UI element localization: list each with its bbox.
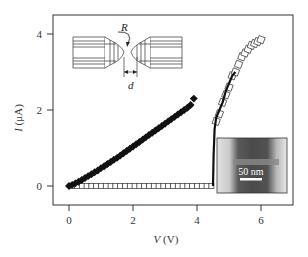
gap-label: d [128, 79, 134, 91]
open-square-marker [180, 184, 185, 189]
open-square-marker [185, 184, 190, 189]
open-square-marker [123, 184, 128, 189]
scale-bar [240, 178, 262, 181]
open-square-marker [99, 184, 104, 189]
x-tick-label: 2 [130, 214, 136, 226]
scale-bar-label: 50 nm [238, 166, 264, 177]
y-tick-label: 4 [37, 28, 43, 40]
open-square-marker [151, 184, 156, 189]
x-axis-label: V (V) [154, 233, 179, 246]
micrograph-inset: 50 nm [217, 138, 287, 193]
y-tick-label: 0 [37, 180, 43, 192]
electrode-schematic-inset [73, 32, 182, 77]
open-square-marker [108, 184, 113, 189]
iv-chart: 4 2 0 I (μA) 0 2 4 6 V (V) [0, 0, 308, 257]
open-square-marker [142, 184, 147, 189]
open-square-marker [118, 184, 123, 189]
x-axis: 0 2 4 6 V (V) [66, 205, 264, 246]
y-axis-label: I (μA) [12, 104, 25, 133]
open-square-marker [190, 184, 195, 189]
open-square-marker [161, 184, 166, 189]
open-square-marker [166, 184, 171, 189]
open-square-marker [84, 184, 89, 189]
open-square-marker [171, 184, 176, 189]
open-square-marker [147, 184, 152, 189]
y-axis: 4 2 0 I (μA) [12, 28, 53, 192]
open-square-marker [234, 60, 242, 68]
open-square-marker [132, 184, 137, 189]
x-tick-label: 0 [66, 214, 72, 226]
open-square-marker [204, 184, 209, 189]
y-tick-label: 2 [37, 104, 43, 116]
open-square-marker [195, 184, 200, 189]
filled-square-marker [190, 95, 198, 103]
open-square-marker [89, 184, 94, 189]
open-square-marker [137, 184, 142, 189]
open-square-marker [113, 184, 118, 189]
open-square-marker [94, 184, 99, 189]
x-tick-label: 4 [194, 214, 200, 226]
radius-label: R [120, 21, 128, 33]
open-square-marker [199, 184, 204, 189]
open-square-marker [175, 184, 180, 189]
open-square-marker [103, 184, 108, 189]
x-tick-label: 6 [258, 214, 264, 226]
open-square-marker [127, 184, 132, 189]
filled-square-series [65, 95, 198, 190]
open-square-marker [156, 184, 161, 189]
